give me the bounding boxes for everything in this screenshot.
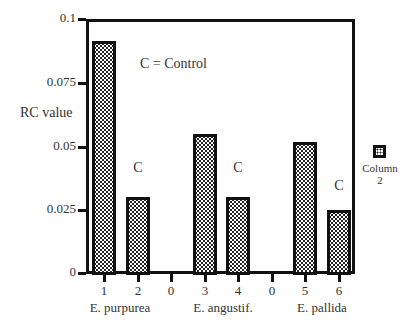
- y-tick-label: 0: [26, 264, 76, 280]
- legend-swatch: [373, 145, 386, 158]
- x-tick-label: 1: [94, 283, 114, 299]
- x-tick-label: 6: [329, 283, 349, 299]
- bar-4: [226, 197, 250, 275]
- bar-1: [92, 41, 116, 275]
- legend-label-line2: 2: [356, 174, 404, 186]
- y-tick: [78, 272, 86, 275]
- x-tick-label: 3: [195, 283, 215, 299]
- group-label: E. angustif.: [173, 300, 273, 316]
- control-marker: C: [329, 178, 349, 194]
- control-marker: C: [228, 160, 248, 176]
- bar-5: [293, 142, 317, 275]
- y-tick: [78, 82, 86, 85]
- x-tick: [170, 274, 173, 282]
- group-label: E. pallida: [272, 300, 372, 316]
- y-tick: [78, 18, 86, 21]
- x-tick-label: 4: [228, 283, 248, 299]
- control-marker: C: [128, 160, 148, 176]
- x-tick: [103, 274, 106, 282]
- x-tick-label: 0: [262, 283, 282, 299]
- x-tick: [204, 274, 207, 282]
- bar-2: [126, 197, 150, 275]
- bar-3: [193, 134, 217, 275]
- y-tick-label: 0.075: [26, 74, 76, 90]
- y-axis-label: RC value: [20, 105, 73, 121]
- x-tick: [237, 274, 240, 282]
- group-label: E. purpurea: [70, 300, 170, 316]
- y-tick-label: 0.025: [26, 201, 76, 217]
- x-tick-label: 0: [161, 283, 181, 299]
- x-tick: [338, 274, 341, 282]
- y-tick-label: 0.05: [26, 138, 76, 154]
- x-tick-label: 5: [295, 283, 315, 299]
- legend-label: Column 2: [356, 162, 404, 186]
- legend-label-line1: Column: [356, 162, 404, 174]
- y-tick: [78, 146, 86, 149]
- y-tick-label: 0.1: [26, 10, 76, 26]
- y-tick: [78, 209, 86, 212]
- x-tick: [271, 274, 274, 282]
- bar-6: [327, 210, 351, 275]
- x-tick: [304, 274, 307, 282]
- x-tick: [137, 274, 140, 282]
- x-tick-label: 2: [128, 283, 148, 299]
- annotation-control: C = Control: [140, 56, 207, 72]
